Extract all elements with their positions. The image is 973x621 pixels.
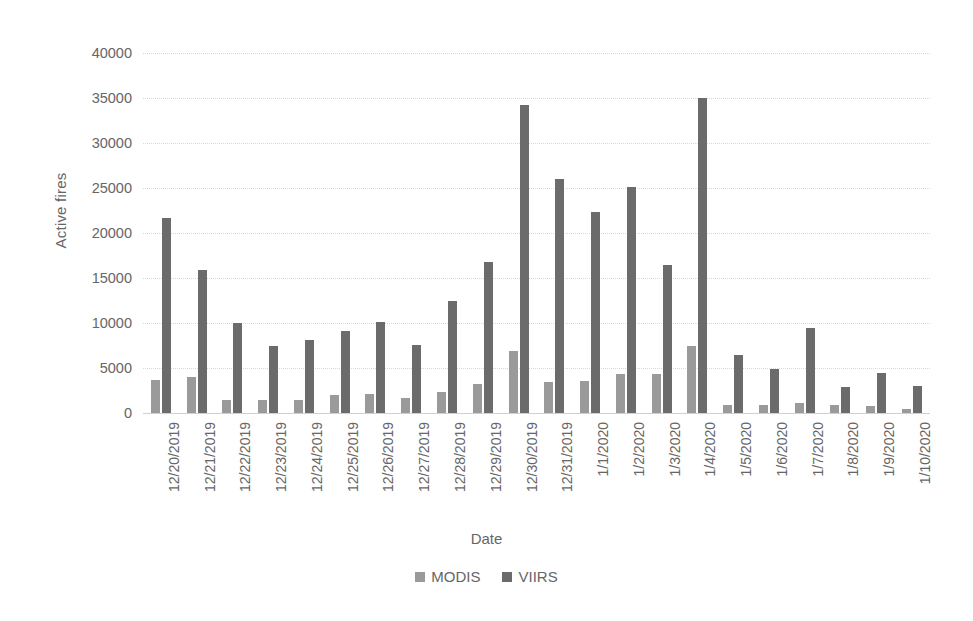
chart-legend: MODISVIIRS	[0, 568, 973, 585]
x-axis-tick-cell: 12/25/2019	[322, 416, 358, 524]
legend-swatch-icon	[415, 572, 425, 582]
y-axis-tick: 25000	[70, 180, 132, 196]
y-axis-tick: 35000	[70, 90, 132, 106]
bar-modis[interactable]	[258, 400, 267, 413]
x-axis-tick-cell: 1/7/2020	[787, 416, 823, 524]
bar-group	[858, 53, 894, 413]
x-axis-tick-cell: 1/10/2020	[894, 416, 930, 524]
bar-viirs[interactable]	[376, 322, 385, 413]
y-axis-title-label: Active fires	[53, 172, 70, 248]
bar-viirs[interactable]	[198, 270, 207, 413]
x-axis-tick-cell: 1/6/2020	[751, 416, 787, 524]
x-axis-tick-cell: 12/20/2019	[143, 416, 179, 524]
y-axis-tick: 20000	[70, 225, 132, 241]
x-axis-tick: 1/10/2020	[917, 422, 933, 484]
bar-viirs[interactable]	[770, 369, 779, 413]
x-axis-tick-cell: 12/30/2019	[501, 416, 537, 524]
plot-area	[143, 53, 930, 413]
bar-viirs[interactable]	[698, 98, 707, 413]
bar-viirs[interactable]	[877, 373, 886, 414]
bar-modis[interactable]	[151, 380, 160, 413]
bar-modis[interactable]	[401, 398, 410, 413]
legend-label: VIIRS	[518, 568, 557, 585]
bar-viirs[interactable]	[484, 262, 493, 413]
bar-modis[interactable]	[437, 392, 446, 413]
legend-entry-viirs[interactable]: VIIRS	[502, 568, 557, 585]
bar-viirs[interactable]	[341, 331, 350, 413]
y-axis-tick: 10000	[70, 315, 132, 331]
bar-group	[644, 53, 680, 413]
bar-viirs[interactable]	[269, 346, 278, 413]
y-axis-tick: 0	[70, 405, 132, 421]
bar-modis[interactable]	[795, 403, 804, 413]
bar-group	[715, 53, 751, 413]
x-axis-tick-cell: 12/27/2019	[393, 416, 429, 524]
bar-group	[751, 53, 787, 413]
bar-group	[679, 53, 715, 413]
bar-modis[interactable]	[330, 395, 339, 413]
bar-viirs[interactable]	[841, 387, 850, 413]
bar-group	[215, 53, 251, 413]
bar-viirs[interactable]	[412, 345, 421, 413]
bar-viirs[interactable]	[591, 212, 600, 413]
bar-group	[536, 53, 572, 413]
y-axis-tick: 40000	[70, 45, 132, 61]
bar-modis[interactable]	[473, 384, 482, 413]
x-axis-tick-cell: 12/29/2019	[465, 416, 501, 524]
bar-group	[465, 53, 501, 413]
bar-modis[interactable]	[509, 351, 518, 413]
bar-group	[358, 53, 394, 413]
x-axis-tick-cell: 1/1/2020	[572, 416, 608, 524]
legend-entry-modis[interactable]: MODIS	[415, 568, 480, 585]
x-axis-tick-cell: 12/28/2019	[429, 416, 465, 524]
bar-modis[interactable]	[866, 406, 875, 413]
bar-viirs[interactable]	[734, 355, 743, 414]
y-axis-tick: 5000	[70, 360, 132, 376]
bar-modis[interactable]	[580, 381, 589, 413]
bar-viirs[interactable]	[913, 386, 922, 413]
legend-label: MODIS	[431, 568, 480, 585]
bar-group	[787, 53, 823, 413]
bar-viirs[interactable]	[233, 323, 242, 413]
bar-modis[interactable]	[902, 409, 911, 414]
bar-viirs[interactable]	[555, 179, 564, 413]
bar-group	[608, 53, 644, 413]
bar-modis[interactable]	[544, 382, 553, 413]
y-axis-tick: 15000	[70, 270, 132, 286]
bar-group	[501, 53, 537, 413]
x-axis-tick-cell: 1/9/2020	[858, 416, 894, 524]
bar-modis[interactable]	[723, 405, 732, 413]
bar-group	[823, 53, 859, 413]
bars-layer	[143, 53, 930, 413]
x-axis-tick-cell: 12/23/2019	[250, 416, 286, 524]
bar-viirs[interactable]	[162, 218, 171, 413]
legend-swatch-icon	[502, 572, 512, 582]
active-fires-bar-chart: Active fires 050001000015000200002500030…	[0, 0, 973, 621]
bar-group	[143, 53, 179, 413]
bar-group	[179, 53, 215, 413]
bar-modis[interactable]	[294, 400, 303, 413]
bar-modis[interactable]	[652, 374, 661, 413]
bar-modis[interactable]	[365, 394, 374, 413]
bar-modis[interactable]	[830, 405, 839, 413]
y-axis-tick: 30000	[70, 135, 132, 151]
bar-viirs[interactable]	[448, 301, 457, 414]
bar-viirs[interactable]	[806, 328, 815, 413]
bar-viirs[interactable]	[663, 265, 672, 413]
x-axis-tick-cell: 1/4/2020	[679, 416, 715, 524]
bar-viirs[interactable]	[627, 187, 636, 413]
bar-viirs[interactable]	[520, 105, 529, 413]
bar-viirs[interactable]	[305, 340, 314, 413]
bar-group	[322, 53, 358, 413]
bar-modis[interactable]	[187, 377, 196, 413]
x-axis-title-label: Date	[471, 530, 503, 547]
bar-group	[572, 53, 608, 413]
gridline	[143, 413, 930, 414]
bar-modis[interactable]	[222, 400, 231, 413]
x-axis-tick-cell: 1/5/2020	[715, 416, 751, 524]
bar-modis[interactable]	[616, 374, 625, 413]
bar-modis[interactable]	[759, 405, 768, 413]
x-axis-tick-cell: 12/31/2019	[536, 416, 572, 524]
x-axis-tick-cell: 12/26/2019	[358, 416, 394, 524]
bar-modis[interactable]	[687, 346, 696, 413]
